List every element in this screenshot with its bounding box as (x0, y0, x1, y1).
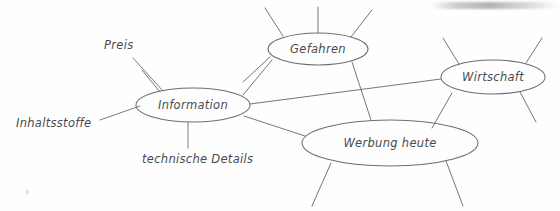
node-gefahren[interactable]: Gefahren (268, 33, 368, 65)
spoke-wirtschaft-2 (526, 38, 542, 63)
leader-preis (133, 58, 163, 91)
leaf-label-technische-details: technische Details (142, 152, 253, 166)
mindmap-svg: Information Gefahren Wirtschaft Werbung … (0, 0, 560, 211)
leaf-label-preis: Preis (104, 38, 133, 52)
spoke-information-1 (142, 70, 160, 92)
node-information-label: Information (158, 98, 228, 112)
node-information[interactable]: Information (136, 88, 250, 122)
leaf-label-inhaltsstoffe: Inhaltsstoffe (16, 116, 91, 130)
spoke-werbung-2 (446, 161, 463, 206)
spoke-werbung-1 (312, 163, 331, 206)
edge-gefahren-werbung-heute (352, 62, 371, 120)
node-wirtschaft-label: Wirtschaft (462, 70, 524, 84)
spoke-gefahren-1 (265, 8, 283, 36)
node-werbung-heute-label: Werbung heute (343, 136, 436, 150)
node-gefahren-label: Gefahren (290, 42, 346, 56)
node-werbung-heute[interactable]: Werbung heute (302, 120, 478, 166)
leader-inhaltsstoffe (100, 106, 140, 120)
spoke-gefahren-3 (351, 10, 372, 37)
edge-group (243, 60, 452, 136)
edge-information-werbung-heute (244, 116, 305, 136)
spoke-wirtschaft-3 (520, 92, 536, 122)
mindmap-canvas: Information Gefahren Wirtschaft Werbung … (0, 0, 560, 211)
edge-information-wirtschaft (250, 79, 441, 104)
spoke-wirtschaft-1 (443, 38, 459, 64)
node-wirtschaft[interactable]: Wirtschaft (441, 60, 545, 94)
